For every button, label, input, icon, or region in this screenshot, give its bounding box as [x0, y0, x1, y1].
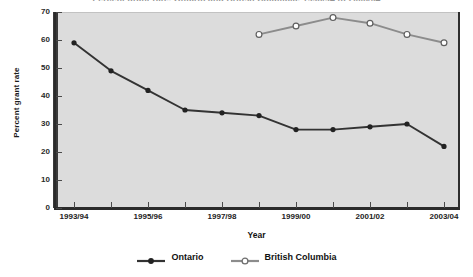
data-point-ontario[interactable] — [145, 88, 150, 93]
data-point-british-columbia[interactable] — [293, 23, 299, 29]
data-point-british-columbia[interactable] — [330, 15, 336, 21]
data-point-ontario[interactable] — [367, 124, 372, 129]
data-point-british-columbia[interactable] — [256, 32, 262, 38]
legend-label-ontario: Ontario — [171, 252, 203, 262]
data-point-ontario[interactable] — [293, 127, 298, 132]
series-layer — [0, 0, 473, 277]
legend-label-british-columbia: British Columbia — [265, 252, 337, 262]
legend-marker-filled-circle-icon — [136, 252, 166, 262]
series-line-ontario — [74, 43, 444, 147]
data-point-british-columbia[interactable] — [441, 40, 447, 46]
data-point-ontario[interactable] — [404, 121, 409, 126]
data-point-ontario[interactable] — [71, 40, 76, 45]
chart-figure: Percent grant rate, Ontario and British … — [0, 0, 473, 277]
data-point-ontario[interactable] — [330, 127, 335, 132]
data-point-ontario[interactable] — [182, 107, 187, 112]
data-point-ontario[interactable] — [256, 113, 261, 118]
data-point-british-columbia[interactable] — [367, 20, 373, 26]
data-point-ontario[interactable] — [219, 110, 224, 115]
legend-marker-open-circle-icon — [230, 252, 260, 262]
series-line-british-columbia — [259, 18, 444, 43]
data-point-ontario[interactable] — [441, 144, 446, 149]
chart-legend: Ontario British Columbia — [0, 252, 473, 262]
data-point-british-columbia[interactable] — [404, 32, 410, 38]
legend-item-british-columbia[interactable]: British Columbia — [230, 252, 337, 262]
legend-item-ontario[interactable]: Ontario — [136, 252, 203, 262]
data-point-ontario[interactable] — [108, 68, 113, 73]
